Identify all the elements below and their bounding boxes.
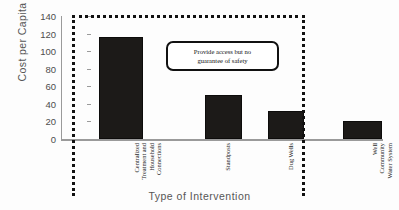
callout-annotation: Provide access but noguarantee of safety [166,41,279,71]
callout-line: Provide access but no [194,47,251,56]
category-label-line: Well [371,143,378,189]
x-axis-category-label: Dug Wells [287,143,294,189]
bar-chart: Cost per Capita 140120100806040200 Provi… [0,0,399,210]
bar [343,121,382,139]
y-tick-label: 20 [45,116,56,127]
category-label-line: Community [378,143,385,189]
category-label-line: Standposts [224,143,231,189]
category-label-line: Dug Wells [287,143,294,189]
y-axis-ticks: 140120100806040200 [30,0,56,210]
x-axis-title: Type of Intervention [0,190,399,202]
y-tick-label: 140 [40,11,56,22]
category-label-line: Treatment and [140,143,147,189]
category-label-line: Centralized [133,143,140,189]
plot-area [61,16,383,139]
callout-line: guarantee of safety [194,56,251,65]
y-tick-label: 120 [40,28,56,39]
y-tick-label: 0 [51,134,56,145]
callout-text: Provide access but noguarantee of safety [190,47,255,65]
y-tick-label: 60 [45,81,56,92]
category-label-line: Household [148,143,155,189]
x-axis-category-label: CentralizedTreatment andHouseholdConnect… [133,143,163,189]
category-label-line: Water System [385,143,392,189]
bar [205,95,242,139]
y-axis-title: Cost per Capita [16,0,28,102]
x-axis-line [61,139,383,141]
x-axis-category-label: Standposts [224,143,231,189]
y-tick-label: 100 [40,46,56,57]
y-tick-label: 80 [45,63,56,74]
category-label-line: Connections [155,143,162,189]
x-axis-category-label: WellCommunityWater System [371,143,393,189]
y-tick-label: 40 [45,98,56,109]
bar [268,111,304,139]
bar [99,37,143,139]
